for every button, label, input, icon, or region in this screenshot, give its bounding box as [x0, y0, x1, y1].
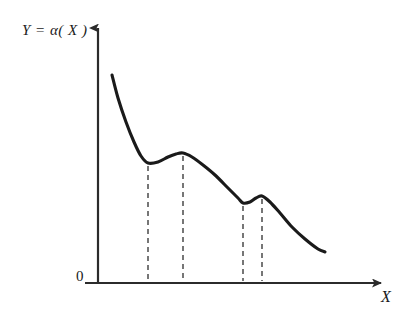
function-plot-canvas	[0, 0, 411, 321]
origin-label: 0	[76, 268, 84, 285]
axes-group	[85, 28, 381, 284]
dashed-drop-lines-group	[148, 156, 262, 281]
y-axis-label: Y = α( X )	[22, 22, 88, 39]
function-curve-alpha	[112, 75, 325, 252]
graph-figure: Y = α( X ) X 0	[0, 0, 411, 321]
x-axis-label: X	[381, 288, 391, 306]
